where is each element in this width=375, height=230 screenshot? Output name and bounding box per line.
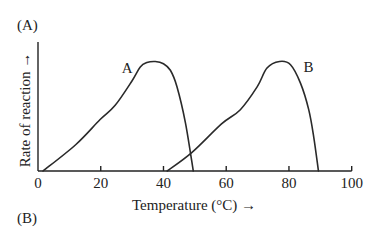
panel-label-b: (B)	[17, 210, 37, 227]
x-axis-tick-labels: 020406080100	[34, 175, 363, 191]
x-axis-ticks	[101, 166, 352, 171]
curve-a	[43, 61, 193, 171]
x-tick-label: 100	[340, 175, 363, 191]
x-tick-label: 40	[156, 175, 171, 191]
x-tick-label: 80	[281, 175, 296, 191]
curve-label-b: B	[303, 59, 313, 75]
x-tick-label: 20	[93, 175, 108, 191]
curves	[43, 61, 318, 171]
enzyme-temperature-chart: (A) 020406080100 AB Rate of reaction → T…	[0, 0, 375, 230]
x-tick-label: 60	[219, 175, 234, 191]
panel-label-a: (A)	[17, 17, 38, 34]
curve-b	[167, 61, 318, 171]
x-tick-label: 0	[34, 175, 42, 191]
curve-label-a: A	[122, 60, 133, 76]
x-axis-title: Temperature (°C) →	[132, 197, 256, 214]
y-axis-title: Rate of reaction →	[17, 53, 33, 168]
